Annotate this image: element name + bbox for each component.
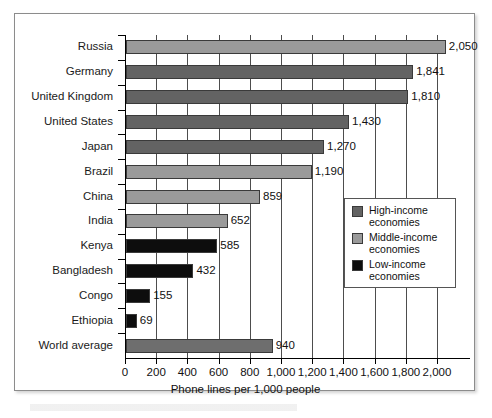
y-axis-tick	[118, 184, 125, 185]
bar-world-average	[126, 339, 273, 353]
gridline-2000	[437, 35, 438, 358]
bar-china	[126, 190, 260, 204]
bar-value-bangladesh: 432	[196, 264, 215, 276]
caption-strip-truncated	[30, 404, 460, 411]
x-tick-mark-400	[187, 358, 188, 364]
gridline-1200	[312, 35, 313, 358]
category-label-brazil: Brazil	[15, 165, 113, 177]
legend-item-low-income: Low-incomeeconomies	[352, 259, 448, 282]
bar-value-congo: 155	[153, 289, 172, 301]
x-tick-mark-0	[125, 358, 126, 364]
category-label-ethiopia: Ethiopia	[15, 314, 113, 326]
bar-germany	[126, 65, 413, 79]
category-label-united-states: United States	[15, 115, 113, 127]
x-tick-label-1000: 1,000	[267, 366, 296, 378]
bar-bangladesh	[126, 264, 193, 278]
category-label-congo: Congo	[15, 289, 113, 301]
x-tick-label-1400: 1,400	[329, 366, 358, 378]
gridline-1400	[343, 35, 344, 358]
x-tick-label-1800: 1,800	[391, 366, 420, 378]
bar-value-japan: 1,270	[327, 140, 356, 152]
y-axis-tick	[118, 333, 125, 334]
y-axis-tick	[118, 209, 125, 210]
x-tick-mark-1000	[281, 358, 282, 364]
bar-value-russia: 2,050	[449, 40, 478, 52]
y-axis-tick	[118, 159, 125, 160]
bar-united-kingdom	[126, 90, 408, 104]
x-axis-line	[125, 358, 470, 359]
legend-swatch-icon-high	[352, 206, 363, 217]
y-axis-tick	[118, 283, 125, 284]
bar-value-united-states: 1,430	[352, 115, 381, 127]
bar-value-brazil: 1,190	[315, 165, 344, 177]
x-tick-mark-1400	[343, 358, 344, 364]
bar-russia	[126, 40, 446, 54]
y-axis-tick	[118, 85, 125, 86]
x-tick-label-1200: 1,200	[298, 366, 327, 378]
chart-frame: Russia2,050Germany1,841United Kingdom1,8…	[14, 13, 475, 391]
y-axis-tick	[118, 308, 125, 309]
category-label-kenya: Kenya	[15, 239, 113, 251]
x-tick-label-2000: 2,000	[423, 366, 452, 378]
x-tick-mark-1600	[375, 358, 376, 364]
bar-congo	[126, 289, 150, 303]
legend-item-middle-income: Middle-incomeeconomies	[352, 232, 448, 255]
y-axis-tick	[118, 134, 125, 135]
gridline-1800	[406, 35, 407, 358]
legend-label-low: Low-incomeeconomies	[369, 259, 426, 282]
category-label-united-kingdom: United Kingdom	[15, 90, 113, 102]
bar-value-world-average: 940	[276, 339, 295, 351]
x-tick-mark-600	[219, 358, 220, 364]
y-axis-tick	[118, 234, 125, 235]
x-tick-mark-800	[250, 358, 251, 364]
bar-japan	[126, 140, 324, 154]
legend-label-middle: Middle-incomeeconomies	[369, 232, 437, 255]
x-tick-label-1600: 1,600	[360, 366, 389, 378]
bar-brazil	[126, 165, 312, 179]
category-label-world-average: World average	[15, 339, 113, 351]
x-tick-label-200: 200	[147, 366, 166, 378]
bar-united-states	[126, 115, 349, 129]
bar-value-india: 652	[231, 214, 250, 226]
x-tick-label-400: 400	[178, 366, 197, 378]
legend-swatch-icon-middle	[352, 233, 363, 244]
bar-value-germany: 1,841	[416, 65, 445, 77]
category-label-bangladesh: Bangladesh	[15, 264, 113, 276]
x-tick-mark-200	[156, 358, 157, 364]
bar-ethiopia	[126, 314, 137, 328]
category-label-india: India	[15, 214, 113, 226]
legend-swatch-icon-low	[352, 260, 363, 271]
category-label-japan: Japan	[15, 140, 113, 152]
y-axis-tick	[118, 35, 125, 36]
x-tick-mark-1800	[406, 358, 407, 364]
y-axis-tick	[118, 259, 125, 260]
category-label-russia: Russia	[15, 40, 113, 52]
x-tick-label-600: 600	[209, 366, 228, 378]
x-tick-mark-1200	[312, 358, 313, 364]
bar-value-united-kingdom: 1,810	[411, 90, 440, 102]
gridline-1600	[375, 35, 376, 358]
bar-value-ethiopia: 69	[140, 314, 153, 326]
x-tick-mark-2000	[437, 358, 438, 364]
legend-label-high: High-incomeeconomies	[369, 205, 428, 228]
bar-value-kenya: 585	[220, 239, 239, 251]
category-label-china: China	[15, 190, 113, 202]
x-tick-label-800: 800	[240, 366, 259, 378]
category-label-germany: Germany	[15, 65, 113, 77]
y-axis-tick	[118, 110, 125, 111]
x-tick-label-0: 0	[122, 366, 128, 378]
x-axis-title: Phone lines per 1,000 people	[15, 383, 476, 395]
y-axis-tick	[118, 60, 125, 61]
bar-value-china: 859	[263, 190, 282, 202]
chart-legend: High-incomeeconomiesMiddle-incomeeconomi…	[344, 198, 456, 288]
legend-item-high-income: High-incomeeconomies	[352, 205, 448, 228]
bar-kenya	[126, 239, 217, 253]
bar-india	[126, 214, 228, 228]
